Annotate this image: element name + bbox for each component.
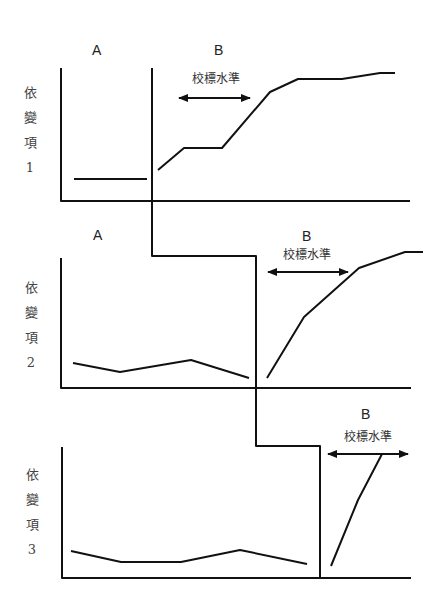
panel2-phase-a-label: A [93, 228, 102, 242]
panel3-y-label: 依 變 項 3 [22, 462, 42, 562]
panel1-criterion-label: 校標水準 [192, 73, 240, 85]
panel1-axes [61, 68, 410, 201]
multiple-baseline-diagram [0, 0, 444, 615]
panel2-criterion-label: 校標水準 [283, 249, 331, 261]
panel3-baseline-data [71, 550, 307, 564]
panel1-phase-a-label: A [92, 43, 101, 57]
phase-change-line [152, 68, 320, 578]
panel2-baseline-data [73, 360, 249, 378]
panel2-axes [61, 258, 411, 388]
panel3-criterion-label: 校標水準 [344, 431, 392, 443]
panel2-intervention-data [267, 252, 423, 378]
panel3-phase-b-label: B [361, 407, 370, 421]
panel1-y-label: 依 變 項 1 [20, 80, 40, 180]
panel2-y-label: 依 變 項 2 [21, 275, 41, 375]
panel1-phase-b-label: B [214, 43, 223, 57]
panel3-intervention-data [331, 454, 382, 566]
panel2-phase-b-label: B [302, 229, 311, 243]
panel3-axes [62, 447, 411, 578]
panel1-intervention-data [158, 73, 395, 170]
